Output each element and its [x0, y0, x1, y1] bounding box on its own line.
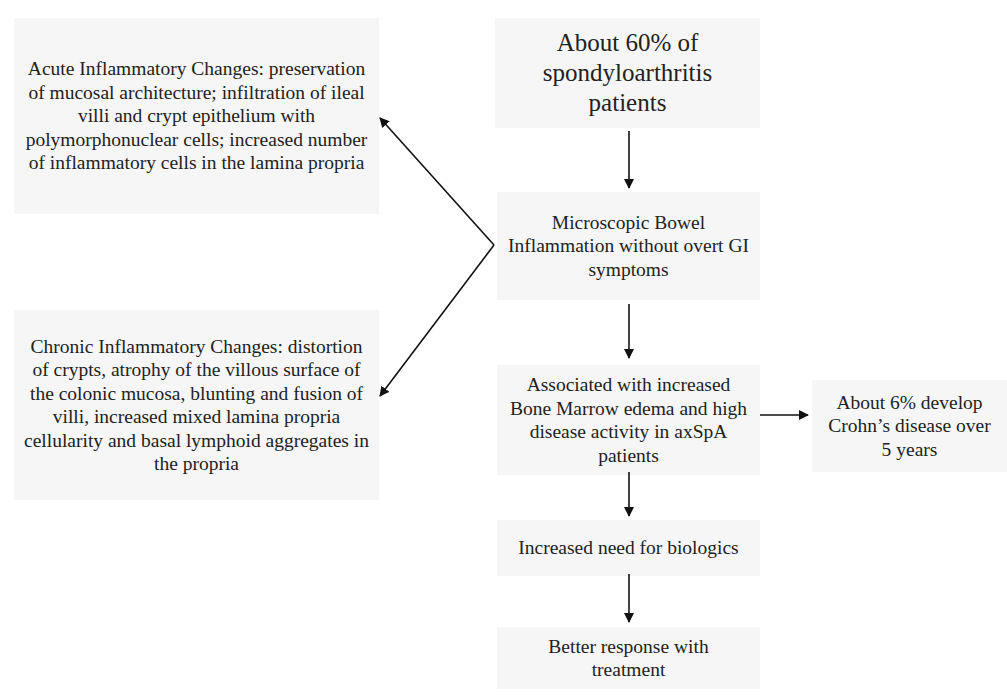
arrows-layer — [0, 0, 1007, 696]
arrow-to-chronic — [380, 245, 494, 396]
arrow-to-acute — [380, 118, 494, 245]
